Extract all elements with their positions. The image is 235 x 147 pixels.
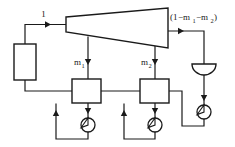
label-extraction-2: m 2 <box>141 57 152 69</box>
label-exit-open: (1 <box>170 12 178 22</box>
boiler <box>14 44 36 80</box>
arrowhead-pump1-inlet <box>85 108 91 114</box>
label-extraction-1-subscript: 1 <box>82 62 85 69</box>
condenser <box>192 64 216 75</box>
pump-1 <box>81 118 95 132</box>
pump-2 <box>148 118 162 132</box>
label-exit-minus-m1: −m <box>178 12 190 22</box>
label-exit-minus-m2: −m <box>196 12 208 22</box>
arrowhead-extraction-2 <box>152 59 158 65</box>
label-extraction-2-subscript: 2 <box>149 62 152 69</box>
turbine <box>66 8 168 48</box>
piping-network <box>25 25 204 140</box>
arrowhead-return-1 <box>53 110 59 116</box>
arrowhead-exhaust <box>178 28 184 35</box>
feedwater-heater-2 <box>140 79 169 103</box>
diagram-canvas: 1 m 1 m 2 (1 −m 1 −m 2 ) <box>0 0 235 147</box>
label-extraction-2-base: m <box>141 57 148 67</box>
pipe-turbine-exhaust <box>168 31 204 64</box>
arrowhead-pump3-inlet <box>201 95 207 101</box>
label-extraction-1-base: m <box>74 57 81 67</box>
arrowhead-return-2 <box>121 110 127 116</box>
arrowhead-pump2-inlet <box>152 108 158 114</box>
label-extraction-1: m 1 <box>74 57 85 69</box>
label-exit-flow: (1 −m 1 −m 2 ) <box>170 12 217 24</box>
label-exit-close: ) <box>214 12 217 22</box>
arrowhead-inlet <box>45 21 51 28</box>
schematic-diagram: 1 m 1 m 2 (1 −m 1 −m 2 ) <box>0 0 235 147</box>
label-inlet-flow: 1 <box>41 9 46 19</box>
pipe-boiler-feed <box>25 80 72 91</box>
arrowhead-extraction-1 <box>85 59 91 65</box>
feedwater-heater-1 <box>72 79 101 103</box>
pump-3 <box>197 105 211 119</box>
